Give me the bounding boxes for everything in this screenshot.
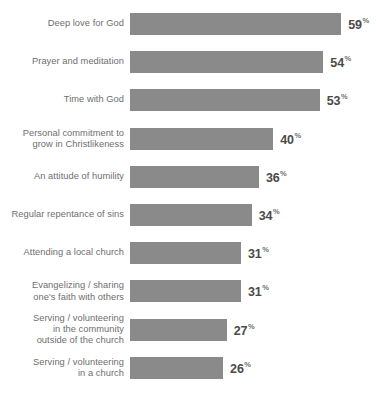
bar-row: Deep love for God59% (0, 13, 376, 35)
bar (130, 128, 273, 150)
bar (130, 13, 341, 35)
bar-track (130, 280, 241, 302)
bar (130, 242, 241, 264)
category-label: An attitude of humility (0, 171, 124, 182)
bar-track (130, 89, 320, 111)
percent-sign: % (294, 131, 301, 140)
value-number: 31 (248, 285, 262, 299)
bar (130, 166, 259, 188)
bar-row: Attending a local church31% (0, 242, 376, 264)
bar (130, 204, 252, 226)
category-label: Prayer and meditation (0, 56, 124, 67)
value-label: 53% (327, 93, 348, 108)
value-label: 31% (248, 284, 269, 299)
horizontal-bar-chart: Deep love for God59%Prayer and meditatio… (0, 0, 376, 402)
value-label: 59% (348, 16, 369, 31)
value-label: 40% (280, 131, 301, 146)
category-label: Serving / volunteering in a church (0, 356, 124, 379)
bar-track (130, 204, 252, 226)
percent-sign: % (341, 93, 348, 102)
category-label: Evangelizing / sharing one's faith with … (0, 280, 124, 303)
value-label: 54% (330, 55, 351, 70)
percent-sign: % (362, 16, 369, 25)
value-number: 36 (266, 170, 280, 184)
bar-row: Time with God53% (0, 89, 376, 111)
category-label: Deep love for God (0, 18, 124, 29)
bar-track (130, 242, 241, 264)
bar (130, 357, 223, 379)
bar-row: Serving / volunteering in a church26% (0, 357, 376, 379)
value-number: 40 (280, 132, 294, 146)
bar-row: Evangelizing / sharing one's faith with … (0, 280, 376, 302)
bar (130, 319, 227, 341)
category-label: Serving / volunteering in the community … (0, 312, 124, 346)
value-number: 34 (259, 209, 273, 223)
percent-sign: % (273, 207, 280, 216)
category-label: Attending a local church (0, 247, 124, 258)
category-label: Personal commitment to grow in Christlik… (0, 127, 124, 150)
value-number: 27 (234, 323, 248, 337)
value-label: 34% (259, 207, 280, 222)
bar-row: An attitude of humility36% (0, 166, 376, 188)
value-number: 59 (348, 18, 362, 32)
percent-sign: % (345, 55, 352, 64)
value-number: 31 (248, 247, 262, 261)
bar (130, 51, 323, 73)
value-number: 53 (327, 94, 341, 108)
bar-row: Prayer and meditation54% (0, 51, 376, 73)
percent-sign: % (262, 246, 269, 255)
bar (130, 280, 241, 302)
value-label: 36% (266, 169, 287, 184)
bar-row: Serving / volunteering in the community … (0, 319, 376, 341)
value-label: 26% (230, 360, 251, 375)
bar (130, 89, 320, 111)
value-label: 27% (234, 322, 255, 337)
bar-row: Personal commitment to grow in Christlik… (0, 128, 376, 150)
category-label: Time with God (0, 95, 124, 106)
category-label: Regular repentance of sins (0, 209, 124, 220)
percent-sign: % (262, 284, 269, 293)
bar-track (130, 51, 323, 73)
value-number: 54 (330, 56, 344, 70)
bar-track (130, 128, 273, 150)
bar-track (130, 357, 223, 379)
bar-row: Regular repentance of sins34% (0, 204, 376, 226)
bar-track (130, 13, 341, 35)
value-number: 26 (230, 361, 244, 375)
bar-track (130, 319, 227, 341)
value-label: 31% (248, 246, 269, 261)
percent-sign: % (248, 322, 255, 331)
percent-sign: % (244, 360, 251, 369)
percent-sign: % (280, 169, 287, 178)
bar-track (130, 166, 259, 188)
